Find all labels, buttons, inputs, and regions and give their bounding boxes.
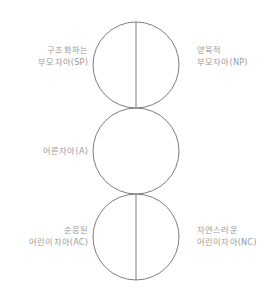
label-natural-child-line2: 어린이자아(NC) <box>197 237 257 249</box>
label-nurturing-parent: 양육적 부모자아(NP) <box>197 45 248 68</box>
label-nurturing-parent-line1: 양육적 <box>197 45 248 57</box>
label-adapted-child: 순응된 어린이자아(AC) <box>29 225 88 248</box>
label-adapted-child-line1: 순응된 <box>29 225 88 237</box>
label-structuring-parent: 구조화하는 부모자아(SP) <box>38 45 88 68</box>
label-natural-child-line1: 자연스러운 <box>197 225 257 237</box>
adult-ego-circle <box>93 108 179 194</box>
label-adult-line1: 어른자아(A) <box>43 146 88 158</box>
label-adapted-child-line2: 어린이자아(AC) <box>29 237 88 249</box>
ego-state-diagram: 구조화하는 부모자아(SP) 양육적 부모자아(NP) 어른자아(A) 순응된 … <box>0 0 280 293</box>
label-structuring-parent-line2: 부모자아(SP) <box>38 57 88 69</box>
label-nurturing-parent-line2: 부모자아(NP) <box>197 57 248 69</box>
label-structuring-parent-line1: 구조화하는 <box>38 45 88 57</box>
label-natural-child: 자연스러운 어린이자아(NC) <box>197 225 257 248</box>
label-adult: 어른자아(A) <box>43 146 88 158</box>
